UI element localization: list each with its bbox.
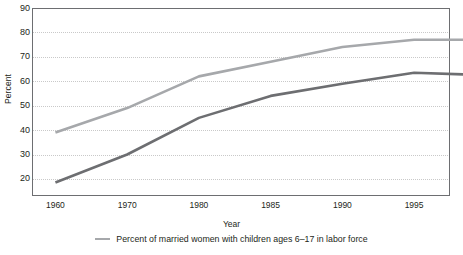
y-axis-tick-labels: 9080706050403020: [4, 0, 30, 200]
y-tick-30: 30: [4, 150, 30, 159]
plot-area: [32, 8, 450, 196]
y-tick-90: 90: [4, 4, 30, 13]
x-tick-1980: 1980: [189, 201, 208, 210]
x-tick-1995: 1995: [405, 201, 424, 210]
x-axis-tick-labels: 1960197019801985199019951996199719982000…: [0, 201, 463, 215]
x-axis-title: Year: [0, 219, 463, 229]
y-tick-50: 50: [4, 101, 30, 110]
legend-swatch-icon: [95, 238, 110, 241]
x-tick-1960: 1960: [46, 201, 65, 210]
chart-legend: Percent of married women with children a…: [0, 234, 463, 244]
series-lines: [32, 8, 450, 196]
y-tick-20: 20: [4, 174, 30, 183]
line-chart: Percent 9080706050403020 196019701980198…: [0, 0, 463, 255]
y-tick-80: 80: [4, 28, 30, 37]
series-line-1: [55, 69, 463, 183]
y-tick-40: 40: [4, 126, 30, 135]
legend-label: Percent of married women with children a…: [116, 234, 367, 244]
series-line-0: [55, 10, 463, 132]
x-tick-1970: 1970: [118, 201, 137, 210]
y-tick-70: 70: [4, 52, 30, 61]
x-tick-1990: 1990: [333, 201, 352, 210]
legend-item-0[interactable]: Percent of married women with children a…: [95, 234, 367, 244]
x-tick-1985: 1985: [261, 201, 280, 210]
y-tick-60: 60: [4, 77, 30, 86]
